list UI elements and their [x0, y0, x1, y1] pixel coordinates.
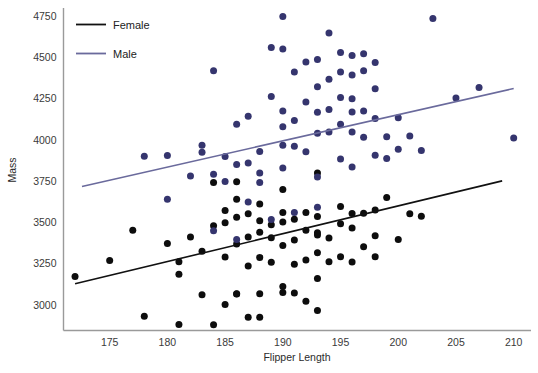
- data-point: [383, 133, 390, 140]
- data-point: [279, 209, 286, 216]
- data-point: [210, 321, 217, 328]
- data-point: [314, 275, 321, 282]
- data-point: [291, 216, 298, 223]
- y-tick-label: 3500: [33, 216, 57, 228]
- data-point: [279, 242, 286, 249]
- data-point: [302, 257, 309, 264]
- scatter-plot-figure: 30003250350037504000425045004750 1751801…: [0, 0, 538, 373]
- data-point: [245, 233, 252, 240]
- x-axis-title: Flipper Length: [263, 351, 330, 363]
- data-point: [372, 253, 379, 260]
- data-point: [256, 200, 263, 207]
- data-point: [360, 243, 367, 250]
- data-point: [199, 142, 206, 149]
- data-point: [256, 229, 263, 236]
- data-point: [164, 240, 171, 247]
- data-point: [349, 71, 356, 78]
- data-point: [233, 236, 240, 243]
- data-point: [245, 198, 252, 205]
- data-point: [360, 50, 367, 57]
- y-tick-label: 3250: [33, 257, 57, 269]
- data-point: [268, 93, 275, 100]
- data-point: [164, 152, 171, 159]
- y-axis-title: Mass: [6, 157, 18, 182]
- data-point: [291, 69, 298, 76]
- data-point: [129, 227, 136, 234]
- data-point: [245, 314, 252, 321]
- data-point: [210, 227, 217, 234]
- data-point: [210, 179, 217, 186]
- data-point: [383, 194, 390, 201]
- data-point: [256, 148, 263, 155]
- data-point: [210, 67, 217, 74]
- data-point: [302, 59, 309, 66]
- data-point: [199, 291, 206, 298]
- data-point: [279, 219, 286, 226]
- data-point: [222, 207, 229, 214]
- data-point: [302, 298, 309, 305]
- data-point: [233, 161, 240, 168]
- data-point: [187, 172, 194, 179]
- data-point: [141, 153, 148, 160]
- data-point: [406, 210, 413, 217]
- data-point: [222, 254, 229, 261]
- data-point: [256, 254, 263, 261]
- data-point: [337, 156, 344, 163]
- data-point: [418, 213, 425, 220]
- legend-label-male: Male: [113, 48, 137, 60]
- data-point: [349, 164, 356, 171]
- data-point: [245, 263, 252, 270]
- y-tick-label: 3750: [33, 175, 57, 187]
- data-point: [349, 95, 356, 102]
- data-point: [256, 290, 263, 297]
- data-point: [233, 214, 240, 221]
- data-point: [372, 85, 379, 92]
- y-tick-label: 4000: [33, 134, 57, 146]
- figure-background: [0, 0, 538, 373]
- data-point: [383, 155, 390, 162]
- x-tick-label: 185: [216, 336, 234, 348]
- data-point: [291, 290, 298, 297]
- data-point: [406, 133, 413, 140]
- x-tick-label: 195: [332, 336, 350, 348]
- data-point: [314, 173, 321, 180]
- plot-svg: 30003250350037504000425045004750 1751801…: [0, 0, 538, 373]
- data-point: [314, 229, 321, 236]
- data-point: [268, 259, 275, 266]
- data-point: [314, 56, 321, 63]
- data-point: [510, 134, 517, 141]
- data-point: [291, 117, 298, 124]
- data-point: [349, 129, 356, 136]
- x-tick-label: 180: [159, 336, 177, 348]
- data-point: [245, 210, 252, 217]
- data-point: [325, 76, 332, 83]
- data-point: [314, 109, 321, 116]
- x-tick-label: 200: [389, 336, 407, 348]
- data-point: [268, 44, 275, 51]
- data-point: [325, 258, 332, 265]
- data-point: [325, 30, 332, 37]
- data-point: [476, 84, 483, 91]
- data-point: [349, 225, 356, 232]
- data-point: [337, 69, 344, 76]
- data-point: [175, 271, 182, 278]
- data-point: [372, 152, 379, 159]
- data-point: [245, 113, 252, 120]
- data-point: [395, 236, 402, 243]
- data-point: [187, 233, 194, 240]
- data-point: [233, 121, 240, 128]
- data-point: [360, 134, 367, 141]
- data-point: [268, 216, 275, 223]
- legend-label-female: Female: [113, 19, 150, 31]
- data-point: [314, 213, 321, 220]
- y-tick-label: 3000: [33, 299, 57, 311]
- x-tick-label: 210: [505, 336, 523, 348]
- data-point: [72, 273, 79, 280]
- data-point: [314, 249, 321, 256]
- data-point: [372, 232, 379, 239]
- data-point: [245, 160, 252, 167]
- data-point: [395, 146, 402, 153]
- data-point: [256, 314, 263, 321]
- data-point: [279, 107, 286, 114]
- x-tick-label: 175: [101, 336, 119, 348]
